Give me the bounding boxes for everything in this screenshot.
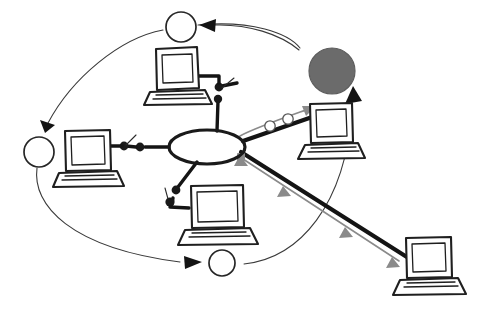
laptop-bottom-right[interactable] [393,237,466,295]
cable-hub-to-left-laptop [108,135,169,151]
node-gray-filled[interactable] [309,48,355,94]
open-circle-node [24,137,54,167]
plug-connector-dot [165,197,174,206]
cable-run-to-bottom-laptop [170,207,189,208]
arrowhead-bottom-node [184,256,202,269]
open-circle-node [166,12,196,42]
arrowhead-left-node [40,120,55,133]
packet-flow-to-bottom-right-laptop [234,155,400,268]
filled-circle-node [309,48,355,94]
laptop-left[interactable] [53,130,124,187]
node-bottom-open[interactable] [209,250,235,276]
plug-key-line [126,135,136,145]
open-circle-node [209,250,235,276]
arrowhead-top-node [199,19,216,32]
flow-arrowhead [386,257,400,268]
central-hub[interactable] [169,130,245,164]
hub-ellipse [169,130,245,164]
loop-arrow-into-top-node [199,19,299,50]
flow-arrowhead [277,186,291,197]
plug-key-line [165,188,168,199]
network-diagram-svg [0,0,478,311]
laptop-bottom-center[interactable] [178,185,258,245]
cable-hub-to-bottom-right-laptop [237,152,410,259]
plug-connector-dot [172,186,181,195]
packet-ring [265,121,275,131]
packet-ring [283,114,293,124]
loop-arrow-top-to-left [40,30,163,133]
node-top-open[interactable] [166,12,196,42]
network-diagram-canvas: Hand-drawn network topology diagram [0,0,478,311]
plug-connector-dot [214,95,222,103]
node-left-open[interactable] [24,137,54,167]
cable-run-to-top-laptop [198,76,219,83]
